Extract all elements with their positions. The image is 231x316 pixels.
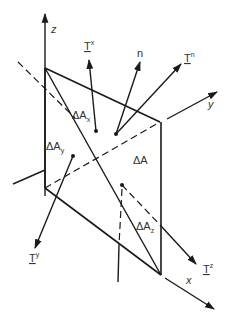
label-dA: ΔA: [133, 154, 148, 166]
vector-Ty: [35, 156, 73, 248]
label-Tn: Tn: [184, 51, 195, 64]
label-Tz: Tz: [203, 262, 214, 275]
vertical-solid-line: [118, 245, 119, 282]
label-Ty: Ty: [29, 251, 40, 264]
vertical-dashed-line: [119, 189, 122, 245]
y-axis-solid-left: [13, 170, 45, 184]
y-axis-label: y: [207, 98, 215, 110]
vector-n: [116, 62, 140, 134]
z-axis-label: z: [50, 23, 57, 35]
vector-Tn: [116, 64, 181, 134]
label-dAx: ΔAx: [72, 109, 91, 123]
vector-Tz-solid: [161, 226, 196, 264]
diagonal-edge: [45, 68, 161, 275]
plane-top-edge: [45, 68, 160, 122]
label-n: n: [137, 47, 143, 59]
label-dAy: ΔAy: [46, 140, 65, 155]
label-Tx: Tx: [84, 39, 95, 52]
label-dAz: ΔAz: [136, 220, 155, 234]
x-axis-label: x: [185, 274, 192, 286]
tetrahedron-traction-diagram: z y x Tx n Tn ΔAx ΔA ΔAy Ty: [0, 0, 231, 316]
